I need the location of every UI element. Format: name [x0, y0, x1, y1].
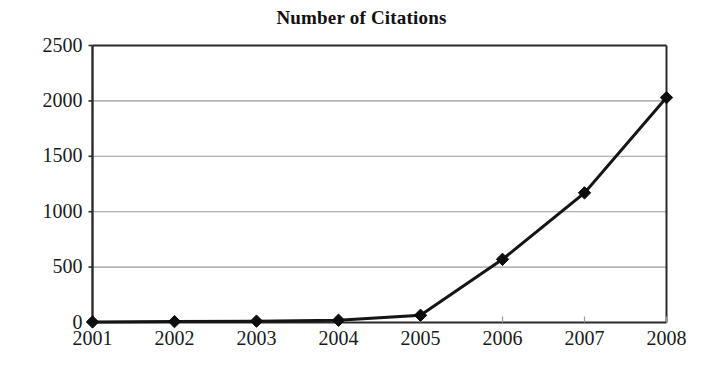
x-axis-tick-label: 2001	[53, 327, 133, 349]
y-axis-tick-label: 2500	[43, 35, 83, 55]
y-axis-tick-label: 1500	[43, 145, 83, 165]
x-axis-tick-label: 2004	[299, 327, 379, 349]
gridlines-group	[93, 101, 667, 267]
x-axis-tick-label: 2003	[217, 327, 297, 349]
data-point-marker	[332, 314, 344, 326]
plot-frame	[93, 46, 667, 323]
data-point-marker	[250, 315, 262, 327]
x-axis-tick-label: 2002	[135, 327, 215, 349]
y-axis-tick-label: 500	[53, 256, 83, 276]
series-line-group	[93, 98, 667, 322]
x-axis-tick-label: 2008	[627, 327, 707, 349]
y-axis-tick-label: 2000	[43, 90, 83, 110]
x-axis-tick-label: 2006	[463, 327, 543, 349]
chart-plot-area	[0, 0, 723, 369]
series-line	[93, 98, 667, 322]
x-axis-tick-label: 2005	[381, 327, 461, 349]
citations-chart-figure: Number of Citations 05001000150020002500…	[0, 0, 723, 369]
y-axis-tick-label: 1000	[43, 201, 83, 221]
x-axis-tick-label: 2007	[545, 327, 625, 349]
series-markers-group	[86, 91, 672, 328]
